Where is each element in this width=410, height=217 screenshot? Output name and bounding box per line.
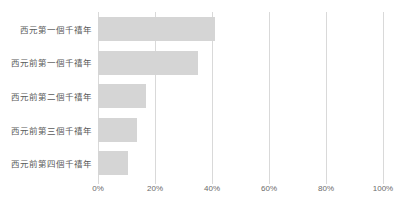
category-label-text: 西元前第三個千禧年 <box>11 124 92 136</box>
bar-segment <box>98 17 215 41</box>
tick-label-60: 60% <box>261 184 277 193</box>
category-label-text: 西元前第一個千禧年 <box>11 56 92 68</box>
bar-row <box>98 146 383 180</box>
category-label-3: 西元前第三個千禧年 <box>0 113 92 147</box>
tick-label-80: 80% <box>318 184 334 193</box>
category-label-0: 西元第一個千禧年 <box>0 12 92 46</box>
category-label-2: 西元前第二個千禧年 <box>0 79 92 113</box>
plot-area <box>98 12 383 180</box>
bar-segment <box>98 151 128 175</box>
bar-segment <box>98 118 137 142</box>
category-label-4: 西元前第四個千禧年 <box>0 146 92 180</box>
bar-row <box>98 12 383 46</box>
tick-label-100: 100% <box>373 184 393 193</box>
gridline-100 <box>383 12 384 180</box>
category-label-text: 西元前第四個千禧年 <box>11 157 92 169</box>
category-label-text: 西元前第二個千禧年 <box>11 90 92 102</box>
tick-label-0: 0% <box>92 184 104 193</box>
category-label-text: 西元第一個千禧年 <box>20 23 92 35</box>
category-axis: 西元第一個千禧年 西元前第一個千禧年 西元前第二個千禧年 西元前第三個千禧年 西… <box>0 12 92 180</box>
tick-label-40: 40% <box>204 184 220 193</box>
bar-segment <box>98 51 198 75</box>
value-axis: 0% 20% 40% 60% 80% 100% <box>98 184 383 200</box>
category-label-1: 西元前第一個千禧年 <box>0 46 92 80</box>
bar-row <box>98 46 383 80</box>
bar-row <box>98 79 383 113</box>
bar-segment <box>98 84 146 108</box>
tick-label-20: 20% <box>147 184 163 193</box>
bar-chart: 西元第一個千禧年 西元前第一個千禧年 西元前第二個千禧年 西元前第三個千禧年 西… <box>0 0 410 217</box>
bar-row <box>98 113 383 147</box>
